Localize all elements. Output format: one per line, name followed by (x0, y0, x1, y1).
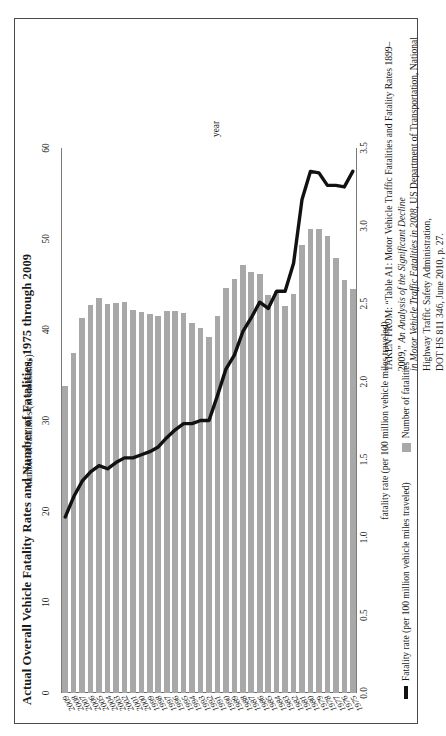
figure-frame: Actual Overall Vehicle Fatality Rates an… (14, 18, 418, 724)
legend-label-number-of-fatalities: Number of fatalities (401, 362, 411, 439)
bottom-axis-tick-label: 3.0 (359, 220, 369, 232)
top-axis-tick-label: 20 (41, 507, 51, 516)
source-line1-b: An Analysis of the Significant Decline (396, 197, 407, 343)
fatality-rate-polyline (65, 171, 353, 517)
bottom-axis-tick-label: 2.0 (359, 376, 369, 388)
category-axis-caption: year (211, 121, 221, 137)
top-axis-tick-label: 60 (41, 143, 51, 152)
top-axis-tick-label: 30 (41, 416, 51, 425)
top-axis-tick-label: 40 (41, 325, 51, 334)
plot-area (61, 148, 357, 693)
line-swatch-icon (404, 686, 408, 699)
bottom-axis-tick-label: 1.5 (359, 454, 369, 466)
legend-item-number-of-fatalities: Number of fatalities (401, 362, 411, 453)
bottom-axis-ticks: 0.00.51.01.52.02.53.03.5 (359, 148, 377, 693)
legend-label-fatality-rate: Fatality rate (per 100 million vehicle m… (401, 482, 411, 681)
bottom-axis-tick-label: 0.5 (359, 609, 369, 621)
source-line2-a: in Motor Vehicle Traffic Fatalities in 2… (408, 208, 419, 371)
bottom-axis-tick-label: 2.5 (359, 298, 369, 310)
legend-item-fatality-rate: Fatality rate (per 100 million vehicle m… (401, 482, 411, 699)
top-axis-caption: number of fatalities (in thousands) (23, 118, 34, 723)
source-line3: DOT HS 811 346, June 2010, p. 27. (434, 233, 445, 371)
rate-line-series (61, 148, 357, 693)
top-axis-tick-label: 0 (41, 691, 51, 696)
top-axis-tick-label: 10 (41, 597, 51, 606)
source-note: TAKEN FROM: “Table A1: Motor Vehicle Tra… (383, 21, 446, 371)
bar-swatch-icon (402, 443, 411, 452)
legend: Fatality rate (per 100 million vehicle m… (401, 362, 411, 699)
bottom-axis-tick-label: 3.5 (359, 142, 369, 154)
bottom-axis-tick-label: 1.0 (359, 531, 369, 543)
top-axis-tick-label: 50 (41, 234, 51, 243)
top-axis-ticks: 0102030405060 (41, 148, 59, 693)
bottom-axis-tick-label: 0.0 (359, 687, 369, 699)
